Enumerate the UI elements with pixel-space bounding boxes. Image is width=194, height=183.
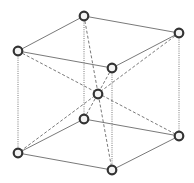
cube-edge: [18, 16, 84, 51]
atom-bottom-back-left: [80, 115, 89, 124]
atom-bottom-front-left: [14, 149, 23, 158]
atom-bottom-back-right: [175, 132, 184, 141]
atom-body-center: [94, 90, 103, 99]
cube-edge: [112, 136, 179, 170]
cube-edge: [112, 33, 179, 68]
lattice-atoms: [14, 12, 184, 175]
atom-top-front-right: [108, 64, 117, 73]
atom-top-back-right: [175, 29, 184, 38]
cube-edge: [18, 51, 112, 68]
lattice-svg: [0, 0, 194, 183]
atom-top-back-left: [80, 12, 89, 21]
cube-edge: [84, 16, 179, 33]
atom-top-front-left: [14, 47, 23, 56]
atom-bottom-front-right: [108, 166, 117, 175]
cube-edge: [84, 119, 179, 136]
bcc-lattice-diagram: [0, 0, 194, 183]
cube-edge: [18, 153, 112, 170]
cube-edge: [18, 119, 84, 153]
